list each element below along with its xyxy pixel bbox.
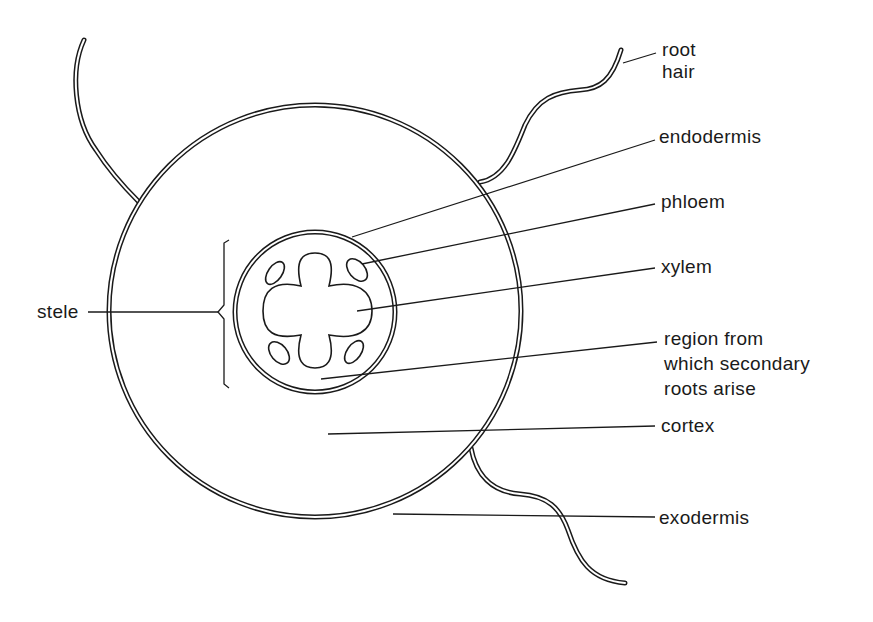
leader-root-hair	[623, 53, 656, 63]
phloem-patch-top-left	[262, 258, 288, 287]
root-hair-left	[76, 40, 139, 202]
exodermis-outer-circle	[109, 105, 521, 517]
label-root-hair-line1: root	[662, 39, 696, 61]
phloem-patch-top-right	[343, 255, 372, 285]
label-stele: stele	[37, 301, 79, 323]
leader-phloem	[362, 204, 655, 264]
label-exodermis: exodermis	[659, 507, 749, 529]
label-region-line1: region from	[664, 328, 763, 350]
leader-cortex	[328, 426, 655, 434]
phloem-patch-bottom-left	[265, 338, 294, 368]
leader-region	[321, 342, 657, 379]
root-hair-top-right	[480, 50, 621, 182]
label-xylem: xylem	[661, 256, 712, 278]
label-phloem: phloem	[661, 191, 725, 213]
leader-exodermis	[393, 514, 655, 517]
label-region-line3: roots arise	[664, 378, 756, 400]
label-endodermis: endodermis	[659, 126, 761, 148]
phloem-patch-bottom-right	[341, 337, 367, 366]
leader-xylem	[357, 268, 655, 311]
label-region-line2: which secondary	[664, 353, 810, 375]
stele-brace	[218, 240, 229, 388]
xylem-cross	[263, 253, 372, 368]
label-cortex: cortex	[661, 415, 715, 437]
label-root-hair-line2: hair	[662, 61, 695, 83]
